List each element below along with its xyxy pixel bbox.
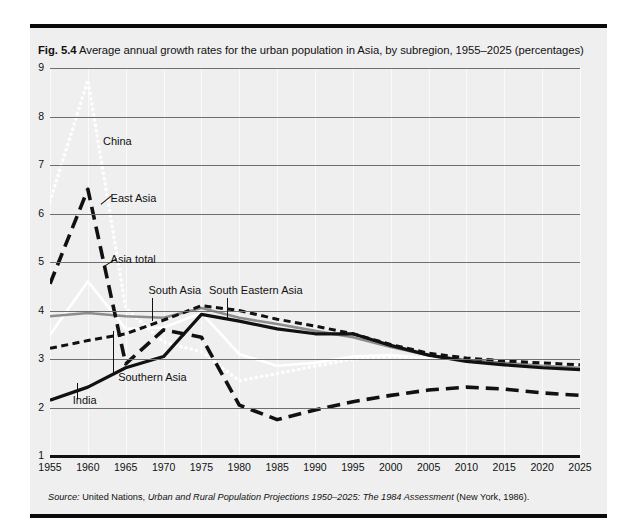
series-line-southern-asia (50, 281, 580, 365)
series-label-china: China (103, 135, 132, 147)
series-label-south-eastern-asia: South Eastern Asia (209, 284, 303, 296)
x-axis-line (50, 455, 580, 458)
series-label-southern-asia: Southern Asia (118, 371, 187, 383)
label-leader-line (152, 298, 153, 321)
y-tick-label: 1 (22, 449, 44, 461)
x-tick-label: 2020 (522, 461, 562, 473)
gridline (50, 408, 580, 409)
x-tick-label: 2005 (409, 461, 449, 473)
series-label-south-asia: South Asia (148, 284, 201, 296)
source-publication: (New York, 1986). (456, 492, 529, 502)
bottom-rule (30, 514, 607, 518)
x-tick-label: 1970 (144, 461, 184, 473)
x-tick-label: 2015 (484, 461, 524, 473)
gridline (50, 117, 580, 118)
figure-caption-text: Average annual growth rates for the urba… (79, 44, 584, 56)
y-tick-label: 6 (22, 207, 44, 219)
y-tick-label: 7 (22, 158, 44, 170)
series-line-india (50, 314, 580, 400)
gridline (50, 68, 580, 69)
x-tick-label: 1980 (219, 461, 259, 473)
x-tick-label: 1990 (295, 461, 335, 473)
source-label: Source: (48, 492, 80, 502)
gridline (50, 214, 580, 215)
x-tick-label: 1960 (68, 461, 108, 473)
x-tick-label: 1985 (257, 461, 297, 473)
label-leader-line (113, 331, 114, 374)
figure-container: Fig. 5.4 Average annual growth rates for… (0, 0, 637, 531)
x-tick-label: 2025 (560, 461, 600, 473)
y-tick-label: 5 (22, 255, 44, 267)
source-organization: United Nations, (82, 492, 145, 502)
x-axis-labels: 1955196019651970197519801985199019952000… (50, 461, 580, 477)
x-tick-label: 1975 (181, 461, 221, 473)
label-leader-line (77, 383, 78, 399)
vertical-gridline (580, 68, 581, 456)
label-leader-line (227, 298, 228, 318)
y-tick-label: 4 (22, 304, 44, 316)
series-line-china (50, 80, 580, 381)
figure-number: Fig. 5.4 (38, 44, 77, 56)
series-line-east-asia (50, 189, 580, 419)
gridline (50, 311, 580, 312)
y-tick-label: 2 (22, 401, 44, 413)
y-axis-labels: 123456789 (22, 68, 44, 456)
series-label-east-asia: East Asia (111, 192, 157, 204)
gridline (50, 359, 580, 360)
x-tick-label: 1995 (333, 461, 373, 473)
source-title: Urban and Rural Population Projections 1… (148, 492, 454, 502)
y-tick-label: 9 (22, 61, 44, 73)
x-tick-label: 1965 (106, 461, 146, 473)
y-tick-label: 8 (22, 110, 44, 122)
y-tick-label: 3 (22, 352, 44, 364)
figure-source: Source: United Nations, Urban and Rural … (48, 492, 608, 502)
figure-caption: Fig. 5.4 Average annual growth rates for… (38, 44, 613, 56)
gridline (50, 165, 580, 166)
x-tick-label: 1955 (30, 461, 70, 473)
x-tick-label: 2010 (446, 461, 486, 473)
series-label-asia-total: Asia total (111, 253, 156, 265)
x-tick-label: 2000 (371, 461, 411, 473)
